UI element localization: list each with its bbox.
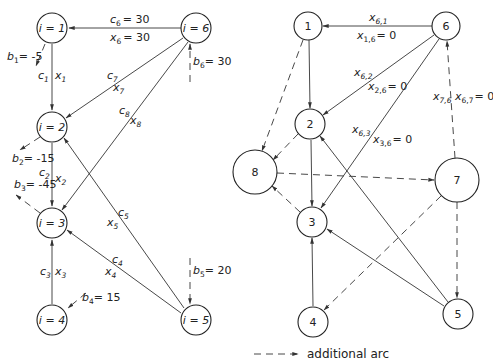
node-label: i = 5 xyxy=(183,314,209,327)
arc-6-3 xyxy=(321,39,439,208)
arc-1-2 xyxy=(309,40,310,108)
network-diagram: i = 1 i = 6 i = 2 i = 3 i = 4 i = 5 c6= … xyxy=(0,0,493,363)
node-i3: i = 3 xyxy=(37,208,67,238)
node-6: 6 xyxy=(432,12,460,40)
arc-3-cost-label: c3 xyxy=(40,265,51,280)
node-i2: i = 2 xyxy=(37,112,67,142)
supply-b4-label: b4= 15 xyxy=(82,291,120,306)
arc-6-2 xyxy=(323,35,434,115)
node-4: 4 xyxy=(298,307,328,337)
node-label: i = 3 xyxy=(39,217,65,230)
arc-8-cost-label: c8 xyxy=(119,104,130,119)
label-x63: x6,3 xyxy=(351,123,371,138)
node-i5: i = 5 xyxy=(181,305,211,335)
node-label: i = 4 xyxy=(39,314,65,327)
node-label: 4 xyxy=(310,316,317,329)
arc-6-flow-label: x6= 30 xyxy=(109,31,150,46)
arc-5-flow-label: x5 xyxy=(106,216,119,231)
arc-4-cost-label: c4 xyxy=(112,253,123,268)
label-x76: x7,6 xyxy=(432,90,452,105)
label-x67: x6,7= 0 xyxy=(454,90,493,105)
arc-1-cost-label: c1 xyxy=(38,69,49,84)
dashed-arc-2-8 xyxy=(273,134,298,160)
arc-2-3 xyxy=(311,140,312,206)
right-graph: 1 6 2 8 3 7 4 5 x6,1 xyxy=(233,11,493,337)
node-2: 2 xyxy=(295,109,325,139)
node-i6: i = 6 xyxy=(181,13,211,43)
dashed-arc-8-7 xyxy=(277,173,434,180)
arc-5-cost-label: c5 xyxy=(118,206,129,221)
label-x26: x2,6= 0 xyxy=(367,80,407,95)
node-i1: i = 1 xyxy=(37,13,67,43)
node-label: 1 xyxy=(305,20,312,33)
arc-5-3 xyxy=(327,229,444,306)
label-x36: x3,6= 0 xyxy=(372,133,412,148)
supply-arrow-2 xyxy=(20,137,40,150)
node-label: 6 xyxy=(443,20,450,33)
label-x61: x6,1 xyxy=(368,11,387,26)
legend: additional arc xyxy=(254,347,389,361)
node-label: i = 2 xyxy=(39,121,65,134)
node-5: 5 xyxy=(443,299,473,329)
node-i4: i = 4 xyxy=(37,305,67,335)
supply-b6-label: b6= 30 xyxy=(193,55,231,70)
node-3: 3 xyxy=(297,207,327,237)
arc-1-flow-label: x1 xyxy=(54,69,66,84)
legend-label: additional arc xyxy=(307,347,389,361)
node-label: 3 xyxy=(309,216,316,229)
arc-8-flow-label: x8 xyxy=(129,114,142,129)
arc-4-3 xyxy=(312,238,313,306)
node-label: 7 xyxy=(454,174,461,187)
arc-5-2 xyxy=(320,136,448,302)
arc-3-flow-label: x3 xyxy=(54,265,67,280)
supply-b3-label: b3= -45 xyxy=(14,178,56,193)
arc-6-cost-label: c6= 30 xyxy=(110,13,150,28)
node-7: 7 xyxy=(435,158,479,202)
supply-b5-label: b5= 20 xyxy=(193,264,231,279)
node-label: i = 6 xyxy=(183,22,209,35)
node-label: 5 xyxy=(455,308,462,321)
label-x62: x6,2 xyxy=(353,66,373,81)
node-8: 8 xyxy=(233,150,277,194)
arc-5-2 xyxy=(64,138,184,308)
supply-b2-label: b2= -15 xyxy=(12,152,54,167)
arc-7-flow-label: x7 xyxy=(112,81,125,96)
arc-6-3 xyxy=(62,42,188,210)
arc-4-flow-label: x4 xyxy=(104,265,117,280)
left-graph: i = 1 i = 6 i = 2 i = 3 i = 4 i = 5 c6= … xyxy=(7,13,231,335)
node-label: 2 xyxy=(307,118,314,131)
label-x16: x1,6= 0 xyxy=(356,29,396,44)
node-1: 1 xyxy=(294,12,322,40)
node-label: i = 1 xyxy=(39,22,65,35)
dashed-arc-3-8 xyxy=(272,186,300,212)
supply-b1-label: b1= -5 xyxy=(7,50,42,65)
supply-arrow-3 xyxy=(16,195,40,213)
dashed-arc-1-8 xyxy=(262,40,303,151)
node-label: 8 xyxy=(252,166,259,179)
